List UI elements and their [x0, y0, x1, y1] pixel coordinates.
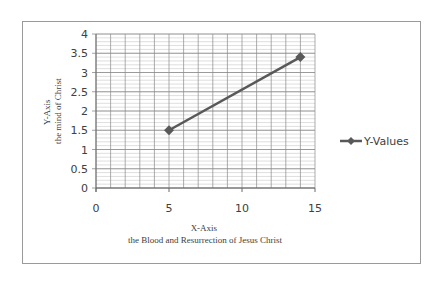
- x-tick-labels: 051015: [93, 202, 323, 215]
- y-axis-title: Y-Axis the mind of Christ: [42, 78, 63, 144]
- svg-text:0: 0: [93, 202, 100, 215]
- legend-label: Y-Values: [363, 135, 409, 148]
- svg-text:0.5: 0.5: [71, 163, 89, 176]
- svg-text:5: 5: [166, 202, 173, 215]
- chart-svg: 00.511.522.533.54 051015 Y-Axis the mind…: [0, 0, 443, 285]
- y-tick-labels: 00.511.522.533.54: [71, 28, 89, 195]
- svg-text:3.5: 3.5: [71, 47, 89, 60]
- svg-text:0: 0: [81, 182, 88, 195]
- svg-text:3: 3: [81, 67, 88, 80]
- data-point-diamond-icon: [164, 125, 174, 135]
- legend-diamond-icon: [347, 137, 355, 145]
- x-axis-title: X-Axis the Blood and Resurrection of Jes…: [128, 223, 282, 245]
- plot-grid: [92, 34, 315, 192]
- svg-text:15: 15: [308, 202, 322, 215]
- svg-text:2: 2: [81, 105, 88, 118]
- legend: Y-Values: [340, 135, 409, 148]
- svg-text:10: 10: [235, 202, 249, 215]
- svg-text:1: 1: [81, 144, 88, 157]
- svg-text:2.5: 2.5: [71, 86, 89, 99]
- svg-text:1.5: 1.5: [71, 124, 89, 137]
- svg-text:4: 4: [81, 28, 88, 41]
